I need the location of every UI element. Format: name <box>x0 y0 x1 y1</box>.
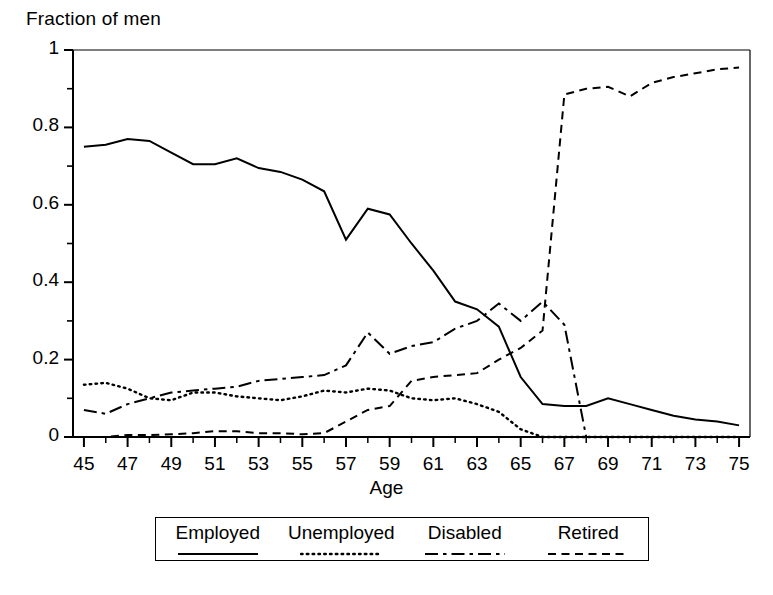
x-tick-label: 67 <box>542 453 586 475</box>
x-axis-title: Age <box>0 477 773 499</box>
y-tick-label: 0.2 <box>33 347 59 369</box>
x-tick-label: 53 <box>237 453 281 475</box>
y-axis-ticks <box>64 50 73 437</box>
legend: EmployedUnemployedDisabledRetired <box>155 517 649 561</box>
legend-entry-label: Retired <box>527 522 651 544</box>
legend-entry-swatch <box>300 551 382 557</box>
x-tick-label: 47 <box>106 453 150 475</box>
series-line-employed <box>84 139 739 425</box>
legend-entry-retired: Retired <box>527 518 651 562</box>
legend-entry-label: Unemployed <box>280 522 404 544</box>
legend-entry-employed: Employed <box>156 518 280 562</box>
x-tick-label: 63 <box>455 453 499 475</box>
x-tick-label: 71 <box>630 453 674 475</box>
data-series-group <box>84 67 739 437</box>
chart-figure: Fraction of men 00.20.40.60.81 454749515… <box>0 0 773 595</box>
series-line-unemployed <box>84 383 739 437</box>
x-tick-label: 49 <box>149 453 193 475</box>
x-tick-label: 55 <box>280 453 324 475</box>
y-axis-title: Fraction of men <box>26 8 161 30</box>
legend-entry-label: Disabled <box>403 522 527 544</box>
y-tick-label: 0.6 <box>33 192 59 214</box>
legend-entry-swatch <box>547 551 629 557</box>
legend-entry-swatch <box>424 551 506 557</box>
y-tick-label: 0 <box>48 424 59 446</box>
legend-entry-swatch <box>177 551 259 557</box>
x-tick-label: 45 <box>62 453 106 475</box>
y-tick-label: 0.8 <box>33 114 59 136</box>
x-tick-label: 69 <box>586 453 630 475</box>
legend-entry-disabled: Disabled <box>403 518 527 562</box>
y-tick-label: 1 <box>48 37 59 59</box>
y-tick-label: 0.4 <box>33 269 59 291</box>
x-tick-label: 65 <box>499 453 543 475</box>
x-tick-label: 61 <box>411 453 455 475</box>
legend-entry-label: Employed <box>156 522 280 544</box>
plot-area <box>0 0 773 595</box>
series-line-retired <box>84 67 739 437</box>
x-tick-label: 73 <box>673 453 717 475</box>
x-axis-ticks <box>84 437 739 447</box>
legend-entry-unemployed: Unemployed <box>280 518 404 562</box>
x-tick-label: 51 <box>193 453 237 475</box>
x-tick-label: 59 <box>368 453 412 475</box>
x-tick-label: 75 <box>717 453 761 475</box>
series-line-disabled <box>84 302 586 437</box>
x-tick-label: 57 <box>324 453 368 475</box>
